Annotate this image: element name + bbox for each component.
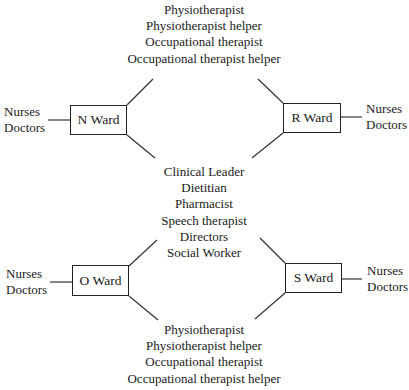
ward-label: R Ward xyxy=(291,110,332,126)
n-ward-to-center-line xyxy=(127,135,155,158)
staff-label: Nurses xyxy=(366,101,407,117)
ward-label: S Ward xyxy=(294,270,334,286)
role-label: Occupational therapist xyxy=(104,354,304,370)
role-label: Pharmacist xyxy=(104,196,304,212)
r-ward-box: R Ward xyxy=(283,103,341,133)
n-ward-box: N Ward xyxy=(70,105,127,135)
role-label: Dietitian xyxy=(104,180,304,196)
s-ward-to-bottom-line xyxy=(255,293,285,319)
n-ward-to-top-line xyxy=(127,79,153,105)
staff-label: Doctors xyxy=(4,120,45,136)
role-label: Physiotherapist helper xyxy=(104,338,304,354)
staff-label: Doctors xyxy=(367,279,408,295)
r-ward-staff: Nurses Doctors xyxy=(366,101,407,133)
s-ward-staff: Nurses Doctors xyxy=(367,263,408,295)
role-label: Occupational therapist xyxy=(104,34,304,50)
staff-label: Nurses xyxy=(367,263,408,279)
role-label: Clinical Leader xyxy=(104,164,304,180)
o-ward-staff: Nurses Doctors xyxy=(6,266,47,298)
staff-label: Nurses xyxy=(4,104,45,120)
o-ward-to-bottom-line xyxy=(129,296,158,320)
role-label: Physiotherapist xyxy=(104,322,304,338)
role-label: Speech therapist xyxy=(104,213,304,229)
r-ward-to-top-line xyxy=(258,79,283,103)
center-shared-staff-group: Clinical Leader Dietitian Pharmacist Spe… xyxy=(104,164,304,261)
role-label: Occupational therapist helper xyxy=(104,371,304,387)
role-label: Directors xyxy=(104,229,304,245)
staff-label: Doctors xyxy=(6,282,47,298)
staff-label: Doctors xyxy=(366,117,407,133)
n-ward-staff: Nurses Doctors xyxy=(4,104,45,136)
r-ward-to-center-line xyxy=(252,133,283,158)
role-label: Physiotherapist helper xyxy=(104,18,304,34)
bottom-therapist-group: Physiotherapist Physiotherapist helper O… xyxy=(104,322,304,387)
role-label: Physiotherapist xyxy=(104,2,304,18)
role-label: Occupational therapist helper xyxy=(104,51,304,67)
ward-label: O Ward xyxy=(80,273,122,289)
ward-label: N Ward xyxy=(78,112,120,128)
o-ward-box: O Ward xyxy=(72,265,129,296)
top-therapist-group: Physiotherapist Physiotherapist helper O… xyxy=(104,2,304,67)
role-label: Social Worker xyxy=(104,245,304,261)
staff-label: Nurses xyxy=(6,266,47,282)
s-ward-box: S Ward xyxy=(285,263,342,293)
